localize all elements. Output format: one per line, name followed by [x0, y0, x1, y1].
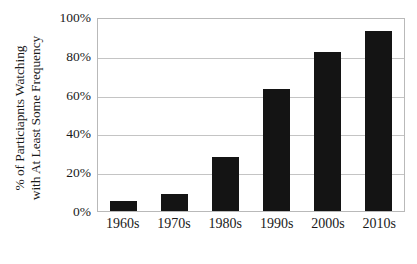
bar-slot: [149, 19, 200, 211]
x-axis-tick-labels: 1960s1970s1980s1990s2000s2010s: [97, 216, 405, 242]
bar-2000s[interactable]: [314, 52, 341, 211]
bar-slot: [251, 19, 302, 211]
x-axis-tick-label: 1970s: [148, 216, 199, 232]
y-axis-tick-labels: 0%20%40%60%80%100%: [42, 18, 94, 212]
x-axis-tick-label: 1980s: [200, 216, 251, 232]
x-axis-tick-label: 2000s: [302, 216, 353, 232]
y-axis-tick-label: 40%: [66, 126, 91, 142]
y-axis-tick-label: 80%: [66, 49, 91, 65]
bar-1990s[interactable]: [263, 89, 290, 211]
bar-1980s[interactable]: [212, 157, 239, 211]
bar-2010s[interactable]: [365, 31, 392, 211]
bar-slot: [98, 19, 149, 211]
x-axis-tick-label: 2010s: [354, 216, 405, 232]
plot-area: [97, 18, 405, 212]
y-axis-tick-label: 60%: [66, 88, 91, 104]
x-axis-tick-label: 1990s: [251, 216, 302, 232]
bar-slot: [302, 19, 353, 211]
bar-chart: % of Particiapnts Watching with At Least…: [0, 0, 417, 264]
y-axis-tick-label: 20%: [66, 165, 91, 181]
bar-slot: [200, 19, 251, 211]
y-axis-tick-label: 100%: [60, 10, 92, 26]
y-axis-title-line-1: % of Particiapnts Watching: [12, 46, 28, 191]
bar-1960s[interactable]: [110, 201, 137, 211]
x-axis-tick-label: 1960s: [97, 216, 148, 232]
bar-slot: [353, 19, 404, 211]
bar-1970s[interactable]: [161, 194, 188, 211]
y-axis-tick-label: 0%: [73, 204, 91, 220]
bars-layer: [98, 19, 404, 211]
